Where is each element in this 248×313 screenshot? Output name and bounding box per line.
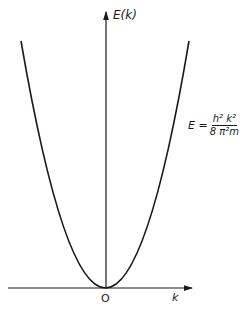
y-axis-label: E(k) bbox=[113, 8, 137, 22]
diagram-canvas bbox=[0, 0, 248, 313]
energy-dispersion-diagram: E(k) O k E = h² k² 8 π²m bbox=[0, 0, 248, 313]
formula-denominator: 8 π²m bbox=[210, 126, 239, 138]
formula-numerator: h² k² bbox=[212, 113, 237, 126]
formula-lhs: E = bbox=[188, 119, 208, 132]
origin-label: O bbox=[101, 292, 110, 305]
energy-formula: E = h² k² 8 π²m bbox=[188, 113, 239, 138]
formula-fraction: h² k² 8 π²m bbox=[210, 113, 239, 138]
x-axis-label: k bbox=[172, 291, 178, 304]
parabola-curve bbox=[21, 41, 189, 288]
